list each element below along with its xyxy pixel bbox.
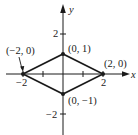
- y-axis-arrow-icon: [60, 4, 66, 13]
- y-tick-label-2: 2: [53, 28, 58, 39]
- y-tick-label-neg2: −2: [46, 109, 57, 120]
- vertex-neg2-0: [21, 72, 25, 76]
- vertex-label-0-1: (0, 1): [68, 43, 91, 55]
- x-tick-label-neg2: −2: [16, 77, 27, 88]
- vertex-label-2-0: (2, 0): [104, 58, 127, 70]
- x-axis-arrow-icon: [122, 71, 130, 77]
- coordinate-plane: x y −2 2 2 −2 (−2, 0) (0, 1) (2, 0) (0, …: [0, 0, 138, 135]
- vertex-2-0: [101, 72, 105, 76]
- x-axis-label: x: [130, 69, 136, 80]
- vertex-0-1: [61, 52, 65, 56]
- vertex-label-neg2-0: (−2, 0): [6, 45, 35, 57]
- vertex-0-neg1: [61, 92, 65, 96]
- x-tick-label-2: 2: [101, 77, 106, 88]
- y-axis-label: y: [68, 4, 74, 15]
- pointer-arrow-head-icon: [20, 66, 24, 72]
- vertex-label-0-neg1: (0, −1): [68, 95, 97, 107]
